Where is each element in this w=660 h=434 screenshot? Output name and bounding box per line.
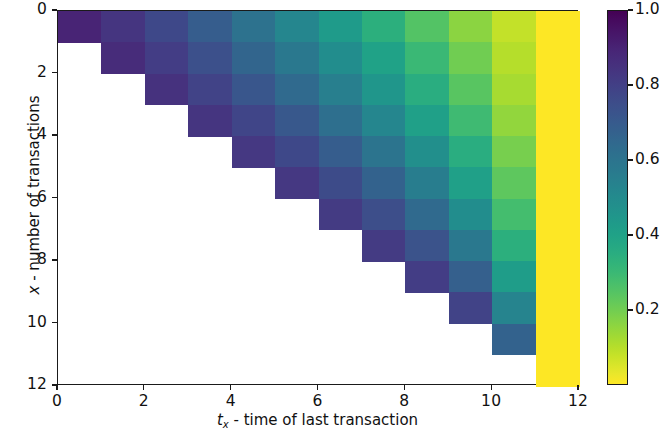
heatmap-cell — [449, 230, 493, 262]
heatmap-cell — [319, 167, 363, 199]
x-tick-label: 10 — [468, 392, 514, 410]
heatmap-cell — [188, 105, 232, 137]
heatmap-cell — [492, 292, 536, 324]
heatmap-cell — [536, 199, 580, 231]
heatmap-cell — [492, 105, 536, 137]
heatmap-cell — [536, 261, 580, 293]
y-axis-title-symbol: x — [25, 286, 43, 295]
heatmap-cell — [536, 167, 580, 199]
heatmap-cell — [319, 74, 363, 106]
heatmap-cell — [232, 11, 276, 43]
heatmap-cell — [449, 11, 493, 43]
colorbar-tick-mark — [628, 9, 633, 10]
heatmap-cell — [536, 230, 580, 262]
colorbar-tick-label: 0.8 — [635, 75, 660, 93]
colorbar-tick-label: 0.2 — [635, 300, 660, 318]
heatmap-cell — [405, 261, 449, 293]
heatmap-cell — [232, 136, 276, 168]
colorbar-tick-mark — [628, 159, 633, 160]
heatmap-cell — [492, 42, 536, 74]
y-tick-mark — [52, 197, 57, 198]
heatmap-cell — [362, 74, 406, 106]
heatmap-cell — [319, 11, 363, 43]
heatmap-cell — [536, 136, 580, 168]
heatmap-cell — [492, 136, 536, 168]
x-tick-label: 0 — [34, 392, 80, 410]
x-tick-mark — [577, 385, 578, 390]
heatmap-cell — [188, 42, 232, 74]
colorbar-tick-label: 1.0 — [635, 0, 660, 18]
y-tick-mark — [52, 134, 57, 135]
heatmap-cell — [58, 11, 102, 43]
heatmap-cell — [536, 42, 580, 74]
y-tick-mark — [52, 322, 57, 323]
y-tick-mark — [52, 259, 57, 260]
heatmap-cell — [319, 42, 363, 74]
heatmap-cell — [492, 230, 536, 262]
heatmap-cell — [275, 105, 319, 137]
heatmap-cell — [449, 292, 493, 324]
heatmap-cell — [275, 74, 319, 106]
heatmap-cell — [449, 167, 493, 199]
heatmap-cell — [536, 292, 580, 324]
x-tick-mark — [404, 385, 405, 390]
heatmap-cell — [232, 42, 276, 74]
x-tick-mark — [491, 385, 492, 390]
colorbar-tick-mark — [628, 234, 633, 235]
y-tick-mark — [52, 72, 57, 73]
heatmap-cell — [101, 11, 145, 43]
heatmap-cell — [145, 11, 189, 43]
y-tick-mark — [52, 9, 57, 10]
colorbar-tick-label: 0.4 — [635, 225, 660, 243]
heatmap-cell — [536, 355, 580, 387]
heatmap-cell — [232, 74, 276, 106]
heatmap-cell — [362, 136, 406, 168]
y-axis-title: x - number of transactions — [25, 8, 43, 383]
heatmap-cell — [492, 74, 536, 106]
x-tick-label: 6 — [295, 392, 341, 410]
y-axis-title-rest: - number of transactions — [25, 96, 43, 286]
heatmap-cell — [405, 136, 449, 168]
heatmap-cell — [319, 105, 363, 137]
heatmap-cell — [319, 136, 363, 168]
heatmap-grid — [58, 11, 577, 384]
heatmap-cell — [536, 105, 580, 137]
x-tick-label: 8 — [381, 392, 427, 410]
x-tick-label: 2 — [121, 392, 167, 410]
heatmap-cell — [188, 74, 232, 106]
x-tick-mark — [56, 385, 57, 390]
colorbar-tick-label: 0.6 — [635, 150, 660, 168]
y-tick-mark — [52, 384, 57, 385]
heatmap-cell — [449, 136, 493, 168]
heatmap-cell — [536, 11, 580, 43]
heatmap-cell — [405, 74, 449, 106]
heatmap-cell — [405, 42, 449, 74]
heatmap-cell — [145, 74, 189, 106]
heatmap-cell — [405, 167, 449, 199]
colorbar-tick-mark — [628, 309, 633, 310]
heatmap-axes — [57, 10, 578, 385]
heatmap-cell — [492, 167, 536, 199]
colorbar-gradient — [608, 11, 627, 384]
heatmap-cell — [188, 11, 232, 43]
heatmap-cell — [275, 136, 319, 168]
heatmap-cell — [449, 105, 493, 137]
heatmap-cell — [405, 230, 449, 262]
x-tick-mark — [143, 385, 144, 390]
x-axis-title: tx - time of last transaction — [57, 411, 578, 430]
x-tick-label: 12 — [555, 392, 601, 410]
x-tick-label: 4 — [208, 392, 254, 410]
heatmap-cell — [145, 42, 189, 74]
x-axis-title-rest: - time of last transaction — [229, 411, 418, 429]
heatmap-cell — [362, 42, 406, 74]
heatmap-cell — [362, 230, 406, 262]
x-tick-mark — [317, 385, 318, 390]
heatmap-cell — [362, 11, 406, 43]
heatmap-cell — [536, 324, 580, 356]
heatmap-cell — [449, 74, 493, 106]
heatmap-cell — [362, 105, 406, 137]
heatmap-cell — [449, 261, 493, 293]
colorbar — [607, 10, 628, 385]
heatmap-cell — [449, 42, 493, 74]
